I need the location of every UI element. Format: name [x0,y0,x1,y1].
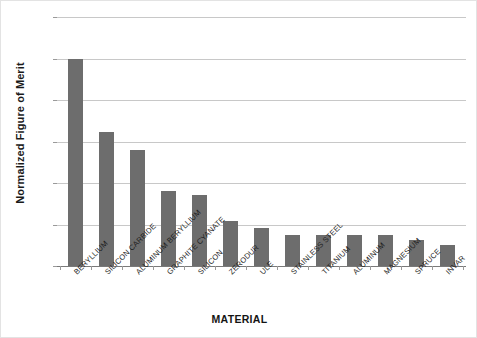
gridline [57,100,466,101]
y-axis-tick-mark [53,183,57,184]
gridline [57,142,466,143]
x-axis-tick-mark [91,266,92,270]
x-axis-tick-mark [153,266,154,270]
y-axis-tick-mark [53,17,57,18]
gridline [57,59,466,60]
x-axis-tick-mark [463,266,464,270]
y-axis-tick-mark [53,142,57,143]
chart-figure: Normalized Figure of Merit 1.201.000.800… [0,0,477,338]
x-axis-tick-mark [246,266,247,270]
x-axis-tick-mark [339,266,340,270]
x-axis-tick-mark [60,266,61,270]
y-axis-tick-mark [53,100,57,101]
gridline [57,225,466,226]
x-axis-title: MATERIAL [1,313,477,325]
gridline [57,183,466,184]
gridline [57,17,466,18]
plot-area: 1.201.000.800.600.400.200.00 [57,17,466,266]
x-axis-tick-mark [401,266,402,270]
x-axis-tick-mark [215,266,216,270]
x-axis-tick-mark [308,266,309,270]
y-axis-title: Normalized Figure of Merit [14,28,26,238]
x-axis-tick-mark [277,266,278,270]
y-axis-tick-mark [53,59,57,60]
y-axis-tick-mark [53,225,57,226]
x-axis-tick-mark [184,266,185,270]
bar [68,59,83,267]
y-axis-tick-mark [53,266,57,267]
x-axis-tick-mark [122,266,123,270]
x-axis-tick-mark [432,266,433,270]
x-axis-tick-mark [370,266,371,270]
